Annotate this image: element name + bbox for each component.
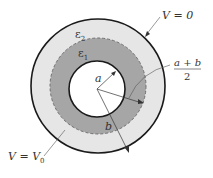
svg-text:a + b: a + b — [174, 57, 201, 68]
radius-b-label: b — [105, 120, 112, 133]
svg-text:2: 2 — [184, 71, 190, 82]
mid-radius-fraction: a + b 2 — [174, 57, 201, 82]
inner-potential-label: V = V0 — [8, 150, 45, 165]
coax-diagram: V = 0 ε2 ε1 a b a + b 2 V = V0 — [0, 0, 213, 178]
radius-a-label: a — [95, 72, 102, 85]
outer-potential-label: V = 0 — [162, 9, 193, 22]
